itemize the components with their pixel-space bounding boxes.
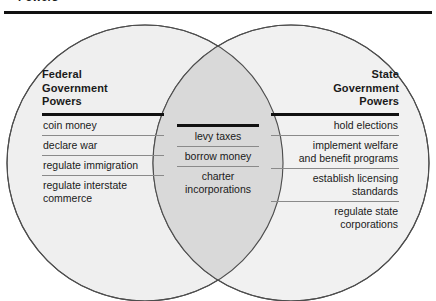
federal-powers-list: coin money declare war regulate immigrat… xyxy=(42,116,164,208)
venn-diagram-page: Powers Federal Government Powers coin mo… xyxy=(0,0,436,301)
state-powers-list: hold elections implement welfare and ben… xyxy=(271,116,399,234)
federal-powers-heading: Federal Government Powers xyxy=(42,68,164,109)
shared-powers-column: levy taxes borrow money charter incorpor… xyxy=(177,124,259,199)
federal-powers-column: Federal Government Powers coin money dec… xyxy=(42,68,164,208)
list-item: borrow money xyxy=(177,147,259,167)
list-item: hold elections xyxy=(271,116,399,136)
list-item: establish licensing standards xyxy=(271,169,399,202)
list-item: regulate immigration xyxy=(42,156,164,176)
list-item: regulate state corporations xyxy=(271,202,399,234)
list-item: regulate interstate commerce xyxy=(42,176,164,208)
shared-powers-list: levy taxes borrow money charter incorpor… xyxy=(177,127,259,199)
list-item: declare war xyxy=(42,136,164,156)
state-powers-heading: State Government Powers xyxy=(271,68,399,109)
list-item: coin money xyxy=(42,116,164,136)
list-item: charter incorporations xyxy=(177,167,259,199)
state-powers-column: State Government Powers hold elections i… xyxy=(271,68,399,234)
list-item: implement welfare and benefit programs xyxy=(271,136,399,169)
list-item: levy taxes xyxy=(177,127,259,147)
